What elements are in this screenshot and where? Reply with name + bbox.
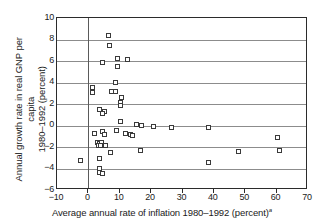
data-point	[114, 128, 119, 133]
x-tick-mark-10	[119, 189, 120, 193]
data-point	[139, 123, 144, 128]
data-point	[130, 133, 135, 138]
gridline-y-4	[57, 83, 306, 84]
x-tick-label-60: 60	[263, 193, 289, 202]
data-point	[138, 148, 143, 153]
x-tick-mark-60	[276, 189, 277, 193]
x-tick-label-30: 30	[169, 193, 195, 202]
plot-area	[56, 17, 307, 189]
x-tick-label--10: −10	[43, 193, 69, 202]
data-point	[78, 158, 83, 163]
data-point	[90, 90, 95, 95]
data-point	[107, 43, 112, 48]
x-tick-label-0: 0	[74, 193, 100, 202]
data-point	[151, 124, 156, 129]
y-tick-label-10: 10	[38, 13, 54, 22]
data-point	[102, 132, 107, 137]
data-point	[275, 135, 280, 140]
data-point	[118, 103, 123, 108]
x-tick-mark-50	[244, 189, 245, 193]
data-point	[169, 125, 174, 130]
data-point	[113, 80, 118, 85]
x-tick-mark-0	[87, 189, 88, 193]
y-axis-title-line2: 1980–1992 (percent)	[36, 66, 47, 152]
data-point	[92, 131, 97, 136]
data-point	[236, 149, 241, 154]
data-point	[106, 33, 111, 38]
gridline-y-6	[57, 61, 306, 62]
x-tick-label-50: 50	[231, 193, 257, 202]
y-axis-title: Annual growth rate in real GNP per capit…	[13, 24, 48, 194]
gridline-y-2	[57, 104, 306, 105]
x-axis-title-text: Average annual rate of inflation 1980–19…	[52, 207, 269, 218]
data-point	[115, 56, 120, 61]
data-point	[206, 125, 211, 130]
x-tick-mark-40	[213, 189, 214, 193]
data-point	[277, 148, 282, 153]
data-point	[118, 119, 123, 124]
x-tick-label-70: 70	[294, 193, 320, 202]
data-point	[97, 156, 102, 161]
data-point	[206, 160, 211, 165]
x-tick-mark-20	[150, 189, 151, 193]
data-point	[100, 60, 105, 65]
x-tick-label-40: 40	[200, 193, 226, 202]
x-axis-title: Average annual rate of inflation 1980–19…	[0, 205, 324, 218]
gridline-y-8	[57, 40, 306, 41]
data-point	[125, 57, 130, 62]
gridline-y--2	[57, 147, 306, 148]
data-point	[113, 89, 118, 94]
x-tick-label-20: 20	[137, 193, 163, 202]
vertical-reference-line	[88, 18, 89, 188]
data-point	[100, 111, 105, 116]
data-point	[100, 171, 105, 176]
gridline-y--4	[57, 169, 306, 170]
x-tick-mark-30	[182, 189, 183, 193]
x-axis-footnote-marker: a	[269, 207, 272, 213]
x-tick-label-10: 10	[106, 193, 132, 202]
data-point	[115, 64, 120, 69]
scatter-chart-figure: 1086420−2−4−6 −10010203040506070 Average…	[0, 0, 324, 224]
data-point	[108, 150, 113, 155]
gridline-y-0	[57, 126, 306, 127]
y-axis-title-line1: Annual growth rate in real GNP per capit…	[13, 37, 36, 181]
data-point	[119, 95, 124, 100]
x-axis-tick-labels: −10010203040506070	[0, 193, 324, 205]
data-point	[103, 143, 108, 148]
